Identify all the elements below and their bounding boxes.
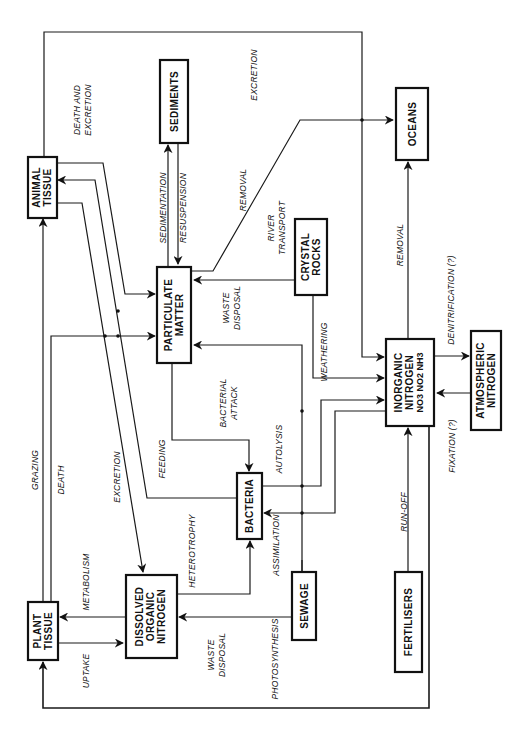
- junction-dot: [103, 334, 107, 338]
- flow-label-heterotrophy: HETEROTROPHY: [187, 513, 197, 587]
- node-label-formulas: NO3 NO2 NH3: [415, 352, 425, 412]
- node-atmospheric-nitrogen: ATMOSPHERIC NITROGEN: [471, 331, 501, 430]
- node-label: ORGANIC: [145, 592, 156, 641]
- node-label: SEWAGE: [299, 583, 310, 629]
- flow-label-sedimentation: SEDIMENTATION: [158, 172, 168, 244]
- flow-label-resuspension: RESUSPENSION: [178, 172, 188, 243]
- junction-dot: [300, 511, 304, 515]
- flow-label-waste-disposal-don: WASTE DISPOSAL: [206, 633, 227, 677]
- node-label: ATMOSPHERIC: [475, 342, 486, 418]
- edge-feeding: [58, 180, 236, 498]
- node-label: TISSUE: [43, 612, 54, 650]
- node-crystal-rocks: CRYSTAL ROCKS: [295, 219, 327, 295]
- svg-text:ATTACK: ATTACK: [229, 386, 239, 421]
- svg-text:RIVER: RIVER: [266, 215, 276, 242]
- node-fertilisers: FERTILISERS: [395, 572, 422, 672]
- node-label: OCEANS: [407, 102, 418, 147]
- flow-label-death-and-excretion: DEATH AND EXCRETION: [72, 84, 93, 136]
- node-label: MATTER: [174, 293, 185, 336]
- junction-dot: [360, 118, 364, 122]
- flow-label-removal-particulate: REMOVAL: [238, 169, 248, 212]
- node-label: FERTILISERS: [403, 588, 414, 656]
- flow-label-weathering: WEATHERING: [319, 322, 329, 381]
- flow-label-denitrification: DENITRIFICATION (?): [446, 255, 456, 345]
- node-label: NITROGEN: [156, 589, 167, 644]
- junction-dot: [300, 484, 304, 488]
- svg-text:WASTE: WASTE: [206, 639, 216, 670]
- node-label: TISSUE: [42, 169, 53, 207]
- svg-text:DISPOSAL: DISPOSAL: [232, 286, 242, 330]
- flow-label-river-transport: RIVER TRANSPORT: [266, 200, 287, 255]
- node-label: SEDIMENTS: [169, 71, 180, 132]
- node-dissolved-organic-nitrogen: DISSOLVED ORGANIC NITROGEN: [126, 575, 177, 658]
- nitrogen-cycle-diagram: ANIMAL TISSUE SEDIMENTS OCEANS PARTICULA…: [0, 0, 524, 742]
- flow-label-excretion-mid: EXCRETION: [112, 451, 122, 503]
- flow-label-waste-disposal-pm: WASTE DISPOSAL: [221, 286, 242, 330]
- node-label: NITROGEN: [404, 355, 415, 410]
- flow-label-feeding: FEEDING: [157, 439, 167, 478]
- node-bacteria: BACTERIA: [237, 473, 262, 539]
- junction-dot: [116, 334, 120, 338]
- junction-dot: [116, 309, 120, 313]
- node-label: ROCKS: [311, 238, 322, 276]
- node-label: ANIMAL: [31, 167, 42, 208]
- flow-label-removal-inorganic: REMOVAL: [395, 224, 405, 267]
- node-label: INORGANIC: [393, 353, 404, 413]
- node-label: CRYSTAL: [300, 233, 311, 281]
- flow-label-uptake: UPTAKE: [81, 654, 91, 689]
- flow-label-assimilation: ASSIMILATION: [271, 514, 281, 577]
- node-label: BACTERIA: [244, 479, 255, 533]
- node-oceans: OCEANS: [396, 88, 428, 160]
- node-label: NITROGEN: [486, 353, 497, 408]
- node-sewage: SEWAGE: [292, 572, 316, 640]
- edge-removal-particulate: [192, 120, 393, 271]
- edge-excretion-animal-to-inorganic: [44, 32, 384, 357]
- edge-death: [51, 336, 155, 602]
- flow-label-excretion-top: EXCRETION: [249, 49, 259, 101]
- node-label: DISSOLVED: [134, 587, 145, 647]
- flow-label-bacterial-attack: BACTERIAL ATTACK: [218, 378, 239, 427]
- flow-label-fixation: FIXATION (?): [447, 419, 457, 473]
- node-label: PARTICULATE: [163, 279, 174, 351]
- flow-label-autolysis: AUTOLYSIS: [274, 425, 284, 475]
- edge-death-and-excretion: [57, 163, 155, 294]
- node-sediments: SEDIMENTS: [160, 60, 188, 143]
- node-label: PLANT: [32, 614, 43, 649]
- flow-label-run-off: RUN-OFF: [399, 492, 409, 532]
- flow-label-metabolism: METABOLISM: [81, 553, 91, 611]
- svg-text:TRANSPORT: TRANSPORT: [277, 200, 287, 255]
- flow-label-grazing: GRAZING: [30, 450, 40, 490]
- svg-text:WASTE: WASTE: [221, 292, 231, 323]
- svg-text:BACTERIAL: BACTERIAL: [218, 378, 228, 427]
- flow-label-photosynthesis: PHOTOSYNTHESIS: [270, 618, 280, 699]
- svg-text:DISPOSAL: DISPOSAL: [217, 633, 227, 677]
- edge-excretion-to-don: [57, 203, 143, 572]
- node-inorganic-nitrogen: INORGANIC NITROGEN NO3 NO2 NH3: [386, 339, 434, 426]
- node-plant-tissue: PLANT TISSUE: [28, 602, 58, 660]
- node-animal-tissue: ANIMAL TISSUE: [28, 157, 57, 218]
- svg-text:DEATH AND: DEATH AND: [72, 85, 82, 135]
- svg-text:EXCRETION: EXCRETION: [83, 84, 93, 136]
- node-particulate-matter: PARTICULATE MATTER: [157, 267, 191, 363]
- edge-photosynthesis: [43, 427, 429, 708]
- flow-label-death: DEATH: [56, 465, 66, 495]
- junction-dot: [300, 409, 304, 413]
